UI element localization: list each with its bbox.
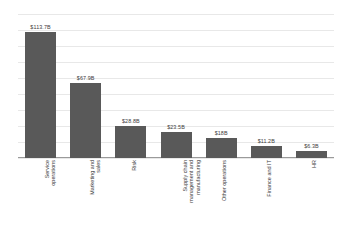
x-axis-category-label-line: operations: [50, 160, 56, 186]
bar-value-label: $67.9B: [77, 75, 95, 82]
bar[interactable]: [206, 138, 237, 158]
bar-value-label: $23.5B: [167, 124, 185, 131]
bar-group[interactable]: $6.3B: [296, 143, 327, 158]
x-axis-category-label-line: Service: [44, 160, 50, 186]
x-axis-category-label-line: sales: [95, 160, 101, 195]
x-axis-category-label: Marketing andsales: [89, 160, 102, 195]
bar-value-label: $18B: [215, 130, 228, 137]
bar[interactable]: [70, 83, 101, 158]
bar-value-label: $113.7B: [30, 24, 50, 31]
bar-group[interactable]: $113.7B: [25, 24, 56, 158]
bar-chart: $113.7B$67.9B$28.8B$23.5B$18B$11.2B$6.3B…: [0, 0, 350, 228]
x-axis-category-label-line: HR: [311, 160, 317, 168]
x-axis-category-label: HR: [311, 160, 317, 168]
bar[interactable]: [251, 146, 282, 158]
x-axis-category-label: Risk: [131, 160, 137, 171]
bar-value-label: $28.8B: [122, 118, 140, 125]
x-axis-category-label: Supply chainmanagement andmanufacturing: [182, 160, 201, 203]
category-labels-layer: ServiceoperationsMarketing andsalesRiskS…: [18, 160, 334, 226]
bar[interactable]: [161, 132, 192, 158]
x-axis-category-label-line: Finance and IT: [266, 160, 272, 197]
bar-group[interactable]: $18B: [206, 130, 237, 158]
x-axis-category-label-line: Marketing and: [89, 160, 95, 195]
bar[interactable]: [115, 126, 146, 158]
x-axis-category-label: Other operations: [221, 160, 227, 201]
x-axis-category-label: Finance and IT: [266, 160, 272, 197]
bar[interactable]: [25, 32, 56, 158]
x-axis-category-label: Serviceoperations: [44, 160, 57, 186]
x-axis-category-label-line: Risk: [131, 160, 137, 171]
x-axis-category-label-line: manufacturing: [195, 160, 201, 203]
x-axis-category-label-line: Other operations: [221, 160, 227, 201]
bar-group[interactable]: $28.8B: [115, 118, 146, 158]
bar-value-label: $11.2B: [258, 138, 275, 145]
bars-layer: $113.7B$67.9B$28.8B$23.5B$18B$11.2B$6.3B: [18, 14, 334, 158]
bar-value-label: $6.3B: [304, 143, 319, 150]
bar-group[interactable]: $11.2B: [251, 138, 282, 158]
bar[interactable]: [296, 151, 327, 158]
bar-group[interactable]: $67.9B: [70, 75, 101, 158]
gridline: [18, 158, 334, 159]
bar-group[interactable]: $23.5B: [161, 124, 192, 158]
